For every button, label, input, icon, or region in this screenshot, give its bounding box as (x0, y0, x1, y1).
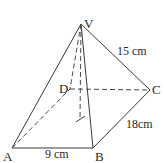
vertex-label-B: B (95, 149, 104, 163)
vertex-label-V: V (84, 16, 94, 31)
edge-VB (81, 24, 93, 148)
hidden-edge-DC (70, 89, 150, 90)
altitude-VO (80, 24, 81, 119)
vertex-label-C: C (152, 82, 161, 97)
measure-BC: 18cm (126, 117, 153, 131)
vertex-label-A: A (3, 149, 13, 163)
hidden-edge-AD (12, 89, 70, 148)
edge-VA (12, 24, 81, 148)
measure-VC: 15 cm (117, 44, 147, 58)
vertex-label-D: D (59, 81, 68, 96)
pyramid-diagram: V A B C D 15 cm 18cm 9 cm (0, 0, 164, 163)
measure-AB: 9 cm (45, 147, 69, 161)
